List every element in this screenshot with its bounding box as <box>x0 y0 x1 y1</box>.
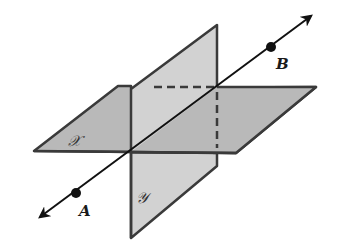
point-b <box>266 42 276 52</box>
point-b-label: B <box>275 55 289 73</box>
point-a <box>71 188 81 198</box>
two-planes-diagram: A B 𝒳 𝒴 <box>0 0 337 248</box>
point-a-label: A <box>77 202 91 220</box>
